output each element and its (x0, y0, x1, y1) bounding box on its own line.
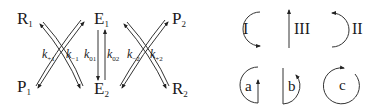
cycle-label-b: b (288, 79, 296, 94)
cycle-label-c: c (339, 78, 346, 93)
cycle-label-ii: II (352, 21, 363, 37)
cycle-label-a: a (245, 79, 252, 94)
cycle-label-iii: III (294, 21, 310, 37)
species-r1: R1 (17, 10, 33, 29)
rate-k-plus1: k+1 (42, 48, 55, 63)
species-p1: P1 (17, 78, 31, 97)
cycle-label-i: I (243, 21, 248, 37)
cycle-ii-arc (332, 13, 349, 47)
rate-k-plus2: k+2 (150, 48, 163, 63)
species-p2: P2 (172, 10, 186, 29)
rate-k-01: k01 (84, 48, 96, 63)
species-e1: E1 (94, 10, 109, 29)
rate-k-minus2: k−2 (127, 48, 140, 63)
species-r2: R2 (172, 80, 188, 99)
species-e2: E2 (94, 80, 109, 99)
rate-k-02: k02 (107, 48, 119, 63)
rate-k-minus1: k−1 (66, 48, 79, 63)
reaction-scheme-arrows (0, 0, 382, 109)
